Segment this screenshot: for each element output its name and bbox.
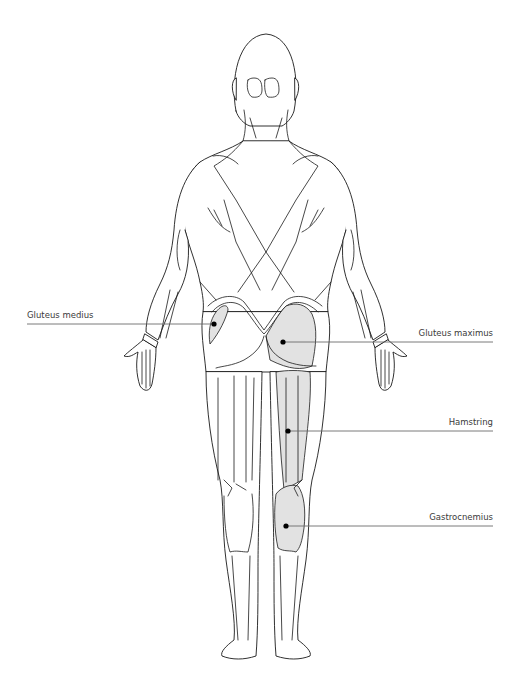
label-gluteus-maximus: Gluteus maximus — [419, 329, 493, 338]
head — [232, 34, 299, 126]
label-hamstring: Hamstring — [449, 418, 493, 427]
marker-gluteus-medius — [211, 321, 216, 326]
legs — [206, 371, 326, 660]
marker-gastrocnemius — [283, 523, 288, 528]
marker-gluteus-maximus — [280, 339, 285, 344]
marker-hamstring — [285, 428, 290, 433]
left-arm — [124, 162, 200, 390]
torso — [183, 141, 348, 312]
label-gastrocnemius: Gastrocnemius — [429, 513, 493, 522]
label-gluteus-medius: Gluteus medius — [27, 311, 94, 320]
muscle-diagram — [0, 0, 519, 679]
gastrocnemius-region — [275, 485, 305, 552]
right-arm — [331, 162, 407, 390]
